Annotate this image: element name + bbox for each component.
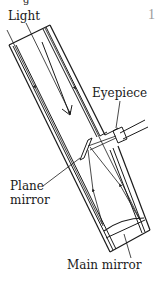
main-mirror-label: Main mirror <box>67 258 142 272</box>
light-label: Light <box>8 9 40 23</box>
eyepiece <box>113 120 148 143</box>
main-mirror <box>104 218 144 231</box>
eyepiece-label: Eyepiece <box>92 86 147 100</box>
plane-mirror-label-line1: Plane <box>10 179 44 193</box>
main-mirror-leader-line <box>124 234 131 258</box>
plane-mirror-label-line2: mirror <box>10 193 50 207</box>
partial-heading-text: g <box>23 0 30 5</box>
figure-number: 1 <box>148 7 155 22</box>
plane-mirror <box>80 138 92 160</box>
eyepiece-leader-line <box>116 101 120 128</box>
telescope-tube <box>9 25 150 252</box>
telescope-diagram: g 1 Light <box>0 0 164 281</box>
